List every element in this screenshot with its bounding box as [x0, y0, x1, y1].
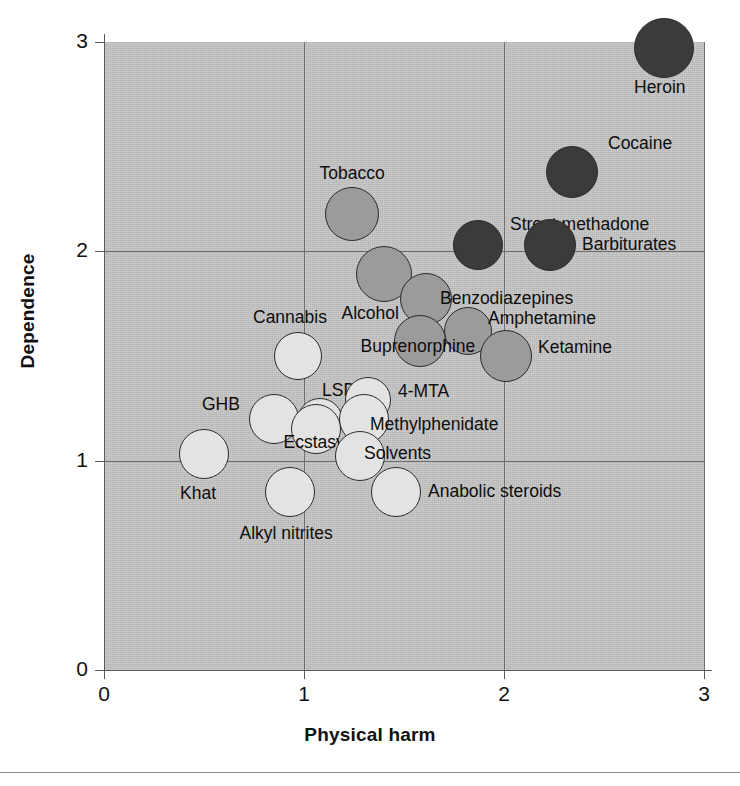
point-label-ketamine: Ketamine — [538, 339, 612, 357]
point-label-solvents: Solvents — [364, 445, 431, 463]
y-tick-0 — [95, 670, 104, 671]
x-tick-label-0: 0 — [84, 682, 124, 706]
point-label-benzodiazepines: Benzodiazepines — [440, 290, 573, 308]
y-tick-label-2: 2 — [48, 238, 88, 262]
x-tick-2 — [504, 670, 505, 679]
point-label-cocaine: Cocaine — [608, 135, 672, 153]
x-axis-line — [96, 670, 712, 671]
bubble-alkyl-nitrites — [265, 467, 315, 517]
point-label-anabolic-steroids: Anabolic steroids — [428, 483, 561, 501]
bubble-street-methadone — [453, 220, 503, 270]
point-label-cannabis: Cannabis — [253, 309, 327, 327]
point-label-barbiturates: Barbiturates — [582, 236, 676, 254]
figure: HeroinCocaineStreet methadoneBarbiturate… — [0, 0, 740, 786]
bubble-heroin — [634, 18, 694, 78]
point-label-tobacco: Tobacco — [320, 165, 385, 183]
point-label-alcohol: Alcohol — [342, 305, 399, 323]
x-tick-0 — [104, 670, 105, 679]
bubble-barbiturates — [524, 219, 576, 271]
point-label-methylphenidate: Methylphenidate — [370, 416, 498, 434]
x-axis-label: Physical harm — [0, 724, 740, 746]
bubble-cannabis — [274, 332, 322, 380]
y-tick-3 — [95, 42, 104, 43]
page-rule — [0, 772, 740, 773]
y-tick-label-1: 1 — [48, 448, 88, 472]
point-label-4-mta: 4-MTA — [398, 383, 449, 401]
bubble-ketamine — [480, 330, 532, 382]
point-label-khat: Khat — [180, 485, 216, 503]
x-tick-label-1: 1 — [284, 682, 324, 706]
y-axis-line — [104, 34, 105, 678]
point-label-heroin: Heroin — [634, 79, 686, 97]
y-axis-label: Dependence — [17, 191, 39, 431]
point-label-alkyl-nitrites: Alkyl nitrites — [240, 525, 333, 543]
point-label-amphetamine: Amphetamine — [488, 310, 596, 328]
y-tick-label-3: 3 — [48, 29, 88, 53]
x-tick-label-2: 2 — [484, 682, 524, 706]
x-tick-label-3: 3 — [684, 682, 724, 706]
x-tick-1 — [304, 670, 305, 679]
bubble-anabolic-steroids — [371, 467, 421, 517]
bubble-tobacco — [325, 187, 379, 241]
x-tick-3 — [704, 670, 705, 679]
y-tick-label-0: 0 — [48, 657, 88, 681]
point-label-ghb: GHB — [202, 396, 240, 414]
y-tick-2 — [95, 251, 104, 252]
point-label-buprenorphine: Buprenorphine — [361, 338, 476, 356]
y-tick-1 — [95, 461, 104, 462]
bubble-cocaine — [546, 146, 598, 198]
